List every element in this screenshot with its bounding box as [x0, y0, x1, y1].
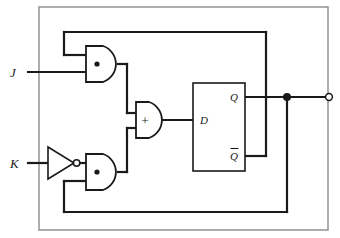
- q-junction-dot: [283, 93, 291, 101]
- d-input-label: D: [199, 114, 208, 126]
- outer-border-rect: [39, 7, 328, 230]
- qbar-output-label: Q: [230, 150, 238, 162]
- circuit-svg: + D Q Q J K: [0, 0, 340, 238]
- k-input-label: K: [9, 156, 20, 171]
- circuit-diagram: + D Q Q J K: [0, 0, 340, 238]
- wire-group: [28, 32, 326, 212]
- and-gate-top: [86, 46, 116, 82]
- and-gate-bottom: [86, 154, 116, 190]
- and-gate-bottom-symbol-dot: [94, 169, 99, 174]
- not-gate-bubble-icon: [73, 160, 79, 166]
- output-terminal: [326, 94, 333, 101]
- q-output-label: Q: [230, 91, 238, 103]
- not-gate-triangle: [48, 147, 74, 179]
- or-gate-symbol-plus: +: [141, 113, 150, 128]
- and-gate-top-symbol-dot: [94, 61, 99, 66]
- j-input-label: J: [10, 65, 17, 80]
